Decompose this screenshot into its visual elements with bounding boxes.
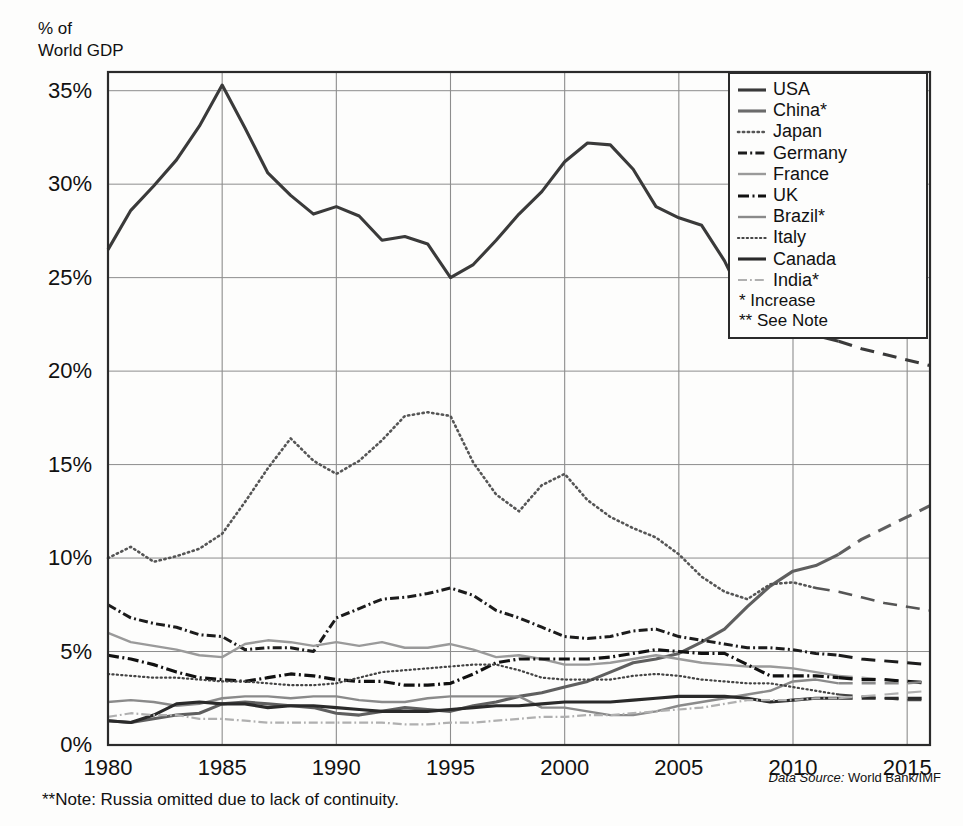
- series-projection: [839, 341, 930, 365]
- legend-item-label: Japan: [773, 122, 822, 141]
- gdp-share-chart: % of World GDP 0%5%10%15%20%25%30%35% 19…: [0, 0, 963, 826]
- footnote: **Note: Russia omitted due to lack of co…: [42, 790, 399, 810]
- legend-item-italy[interactable]: Italy: [738, 227, 920, 248]
- y-axis-title-line2: World GDP: [38, 41, 124, 60]
- legend-item-india[interactable]: India*: [738, 270, 920, 291]
- legend-line-swatch: [738, 105, 766, 117]
- legend-item-label: USA: [773, 80, 810, 99]
- legend-note: ** See Note: [738, 311, 920, 331]
- legend-line-swatch: [738, 274, 766, 286]
- y-tick-label: 30%: [14, 171, 92, 197]
- legend-line-swatch: [738, 232, 766, 244]
- y-axis-title: % of World GDP: [38, 18, 124, 62]
- y-tick-label: 20%: [14, 358, 92, 384]
- y-tick-label: 5%: [14, 639, 92, 665]
- legend-rows: USAChina*JapanGermanyFranceUKBrazil*Ital…: [738, 79, 920, 291]
- legend-item-canada[interactable]: Canada: [738, 249, 920, 270]
- legend-item-label: Italy: [773, 228, 806, 247]
- legend-notes: * Increase** See Note: [738, 291, 920, 331]
- data-source: Data Source: World Bank/IMF: [769, 770, 941, 785]
- legend-line-swatch: [738, 211, 766, 223]
- legend-line-swatch: [738, 147, 766, 159]
- legend-line-swatch: [738, 126, 766, 138]
- legend[interactable]: USAChina*JapanGermanyFranceUKBrazil*Ital…: [728, 72, 928, 339]
- series-japan: [108, 412, 930, 610]
- x-tick-label: 2005: [634, 755, 724, 781]
- series-projection: [816, 588, 930, 610]
- data-source-value: World Bank/IMF: [848, 770, 941, 785]
- legend-item-china[interactable]: China*: [738, 100, 920, 121]
- legend-item-uk[interactable]: UK: [738, 185, 920, 206]
- legend-item-japan[interactable]: Japan: [738, 121, 920, 142]
- legend-item-label: France: [773, 165, 829, 184]
- data-source-label: Data Source:: [769, 770, 845, 785]
- legend-line-swatch: [738, 168, 766, 180]
- x-tick-label: 2000: [520, 755, 610, 781]
- legend-item-france[interactable]: France: [738, 164, 920, 185]
- legend-item-usa[interactable]: USA: [738, 79, 920, 100]
- x-tick-label: 1985: [177, 755, 267, 781]
- legend-item-brazil[interactable]: Brazil*: [738, 206, 920, 227]
- series-projection: [839, 655, 930, 664]
- legend-item-germany[interactable]: Germany: [738, 143, 920, 164]
- y-tick-label: 25%: [14, 265, 92, 291]
- legend-note: * Increase: [738, 291, 920, 311]
- y-tick-label: 35%: [14, 78, 92, 104]
- legend-item-label: India*: [773, 271, 819, 290]
- series-projection: [839, 681, 930, 683]
- legend-item-label: Canada: [773, 250, 836, 269]
- x-tick-label: 1980: [63, 755, 153, 781]
- legend-line-swatch: [738, 84, 766, 96]
- series-brazil: [108, 680, 930, 716]
- series-projection: [839, 506, 930, 555]
- legend-item-label: UK: [773, 186, 798, 205]
- x-tick-label: 1990: [291, 755, 381, 781]
- legend-item-label: China*: [773, 101, 827, 120]
- legend-line-swatch: [738, 190, 766, 202]
- y-axis-title-line1: % of: [38, 19, 72, 38]
- y-tick-label: 10%: [14, 545, 92, 571]
- y-tick-label: 15%: [14, 452, 92, 478]
- legend-line-swatch: [738, 253, 766, 265]
- legend-item-label: Brazil*: [773, 207, 825, 226]
- x-tick-label: 1995: [406, 755, 496, 781]
- legend-item-label: Germany: [773, 144, 847, 163]
